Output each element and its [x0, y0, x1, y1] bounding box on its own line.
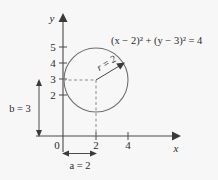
equation-label: (x − 2)² + (y − 3)² = 4	[111, 35, 203, 47]
origin-label: 0	[54, 139, 60, 151]
figure-canvas: 0 2 4 2 3 4 5 y x r = 2 (x − 2)² + (y − …	[0, 0, 218, 180]
vertical-offset-dimension-group: b = 3	[9, 79, 42, 137]
y-axis-label: y	[49, 12, 55, 24]
a-dimension-arrowhead-right	[90, 151, 97, 157]
tick-marks-group	[59, 47, 128, 140]
x-axis-label: x	[173, 142, 179, 154]
axes-group	[36, 13, 181, 152]
x-tick-label-4: 4	[125, 139, 131, 151]
horizontal-offset-dimension-group: a = 2	[62, 151, 97, 172]
y-tick-label-2: 2	[50, 89, 56, 101]
x-axis-arrowhead	[172, 132, 181, 141]
y-tick-label-5: 5	[50, 41, 56, 53]
b-dimension-arrowhead-top	[36, 79, 42, 86]
radius-arrowhead	[116, 63, 125, 70]
a-dimension-label: a = 2	[69, 160, 90, 171]
axis-names-group: y x	[49, 12, 179, 154]
radius-label: r = 2	[95, 53, 118, 73]
x-tick-label-2: 2	[93, 139, 99, 151]
radius-arrow-group: r = 2	[95, 53, 125, 80]
circle-equation-figure: 0 2 4 2 3 4 5 y x r = 2 (x − 2)² + (y − …	[0, 0, 218, 180]
y-axis-arrowhead	[59, 13, 68, 22]
b-dimension-label: b = 3	[9, 103, 31, 114]
y-tick-label-3: 3	[50, 73, 56, 85]
y-tick-label-4: 4	[50, 57, 56, 69]
